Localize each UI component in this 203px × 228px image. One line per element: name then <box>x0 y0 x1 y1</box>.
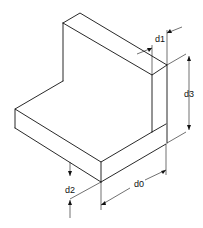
arrowheads <box>68 29 191 205</box>
bracket-geometry <box>0 0 203 228</box>
dimension-label-d1: d1 <box>155 35 165 44</box>
bracket-drawing: d1 d3 d0 d2 <box>0 0 203 228</box>
dimension-label-d3: d3 <box>184 90 194 99</box>
dimension-label-d2: d2 <box>65 186 75 195</box>
dimension-label-d0: d0 <box>134 180 144 189</box>
dimension-lines <box>70 27 189 218</box>
